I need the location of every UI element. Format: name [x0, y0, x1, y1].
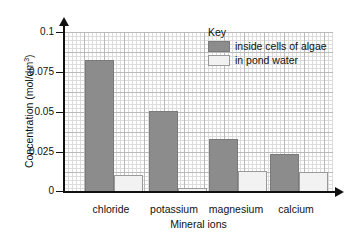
y-tick-label-0.075: 0.075 [0, 67, 54, 77]
x-axis-label: Mineral ions [64, 218, 333, 230]
legend: Key inside cells of algae in pond water [208, 26, 327, 68]
legend-title: Key [208, 26, 327, 38]
y-tick-label-0: 0 [0, 186, 54, 196]
bar-potassium-algae [149, 111, 178, 192]
x-axis-line [63, 191, 337, 193]
y-tick-label-0.1: 0.1 [0, 27, 54, 37]
clipped-caption [0, 231, 348, 239]
y-axis-label-exponent: 3 [23, 58, 30, 62]
bar-chart-figure: Concentration (mol/dm3) 0.1 0.075 0.05 0… [0, 0, 348, 239]
bar-chloride-pond [114, 175, 143, 192]
x-axis-arrow-icon [335, 187, 344, 197]
x-tick-label-calcium: calcium [260, 203, 332, 215]
bar-chloride-algae [85, 60, 114, 192]
y-tick-label-0.025: 0.025 [0, 147, 54, 157]
y-tick-label-0.05: 0.05 [0, 107, 54, 117]
bar-magnesium-pond [238, 171, 267, 192]
legend-label-pond: in pond water [235, 54, 298, 66]
bar-magnesium-algae [209, 139, 238, 192]
legend-swatch-icon-algae [208, 41, 230, 52]
y-axis-arrow-icon [59, 17, 69, 26]
legend-swatch-icon-pond [208, 55, 230, 66]
y-axis-label-tail: ) [23, 54, 35, 58]
legend-item-inside-cells-of-algae: inside cells of algae [208, 40, 327, 52]
bar-calcium-pond [299, 172, 328, 192]
y-axis-line [63, 24, 65, 193]
legend-item-in-pond-water: in pond water [208, 54, 327, 66]
bar-calcium-algae [270, 154, 299, 192]
legend-label-algae: inside cells of algae [235, 40, 327, 52]
